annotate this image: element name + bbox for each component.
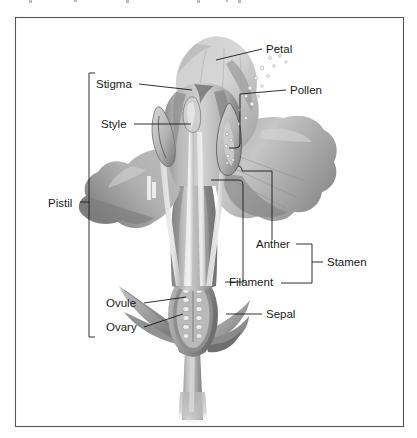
label-anther: Anther (256, 238, 290, 250)
label-ovule: Ovule (106, 297, 136, 309)
cropped-text-crumbs (29, 0, 241, 3)
label-sepal: Sepal (266, 308, 295, 320)
stem-highlight (189, 350, 195, 412)
label-pollen: Pollen (290, 84, 322, 96)
label-petal: Petal (266, 43, 292, 55)
label-filament: Filament (229, 276, 274, 288)
label-stigma: Stigma (96, 78, 132, 90)
label-ovary: Ovary (106, 321, 137, 333)
flower-anatomy-figure: Petal Stigma Pollen Style Pistil Anther … (0, 0, 417, 438)
petal-left-notch-2 (152, 182, 156, 198)
label-stamen: Stamen (327, 256, 367, 268)
diagram-canvas: Petal Stigma Pollen Style Pistil Anther … (0, 0, 417, 438)
label-style: Style (101, 118, 127, 130)
petal-left-notch (147, 176, 151, 200)
label-pistil: Pistil (48, 197, 72, 209)
